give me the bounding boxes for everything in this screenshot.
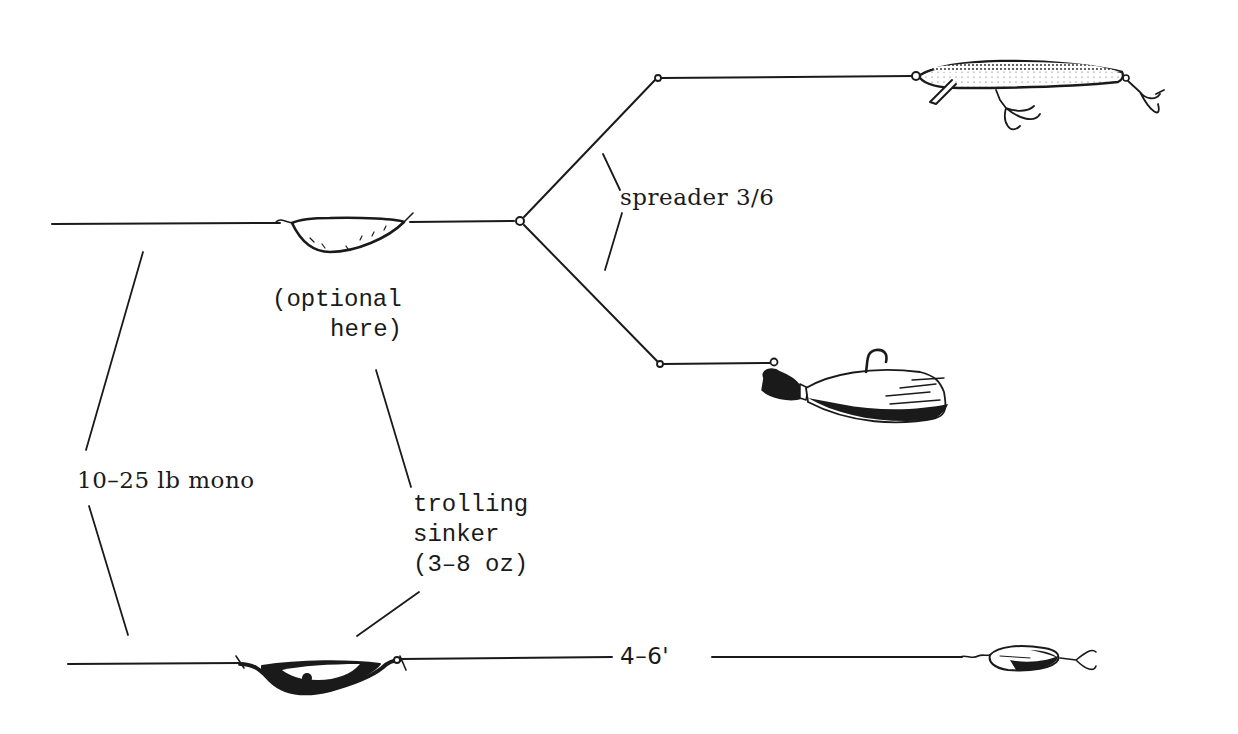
pointer-line-mono-upper bbox=[86, 252, 143, 450]
leader-length-label: 4–6' bbox=[620, 642, 669, 671]
main-line-top bbox=[52, 223, 280, 224]
optional-label-line2: here) bbox=[330, 315, 402, 344]
bucktail-jig-lure-icon bbox=[762, 350, 948, 422]
leader-lower bbox=[663, 363, 770, 364]
sinker-label-line1: trolling bbox=[413, 490, 528, 519]
spreader-label: spreader 3/6 bbox=[620, 183, 775, 212]
main-line-top-2 bbox=[410, 221, 514, 222]
sinker-label-line3: (3–8 oz) bbox=[413, 550, 528, 579]
spreader-arm-lower bbox=[524, 225, 657, 361]
pointer-line-mono-lower bbox=[89, 506, 128, 635]
optional-sinker-icon bbox=[276, 213, 413, 252]
leader-upper bbox=[661, 76, 912, 78]
spreader-swivel-icon bbox=[516, 217, 524, 225]
trolling-sinker-icon bbox=[236, 656, 406, 693]
crankbait-lure-icon bbox=[912, 61, 1164, 129]
pointer-line-sinker-upper bbox=[376, 370, 411, 487]
pointer-line-spreader-lower bbox=[605, 213, 622, 270]
spoon-lure-icon bbox=[960, 646, 1096, 670]
main-line-bottom bbox=[68, 663, 240, 664]
sinker-label-line2: sinker bbox=[413, 520, 499, 549]
leader-bottom-left bbox=[400, 657, 612, 659]
pointer-line-sinker-lower bbox=[357, 592, 419, 636]
rig-diagram bbox=[0, 0, 1238, 734]
line-spec-label: 10–25 lb mono bbox=[77, 466, 255, 495]
optional-label-line1: (optional bbox=[272, 285, 402, 314]
pointer-line-spreader-upper bbox=[603, 154, 620, 190]
